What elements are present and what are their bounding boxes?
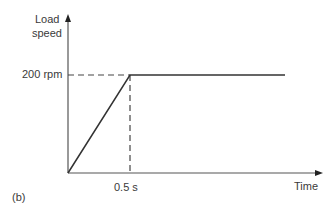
x-axis-label: Time (294, 180, 318, 192)
y-axis-label-line1: Load (35, 13, 59, 25)
load-speed-line (68, 75, 285, 173)
panel-label: (b) (12, 191, 25, 203)
x-tick-label: 0.5 s (114, 181, 138, 193)
x-axis-arrow-icon (315, 170, 323, 176)
y-axis-arrow-icon (65, 14, 71, 22)
y-tick-label: 200 rpm (22, 68, 62, 80)
y-axis-label-line2: speed (32, 27, 62, 39)
